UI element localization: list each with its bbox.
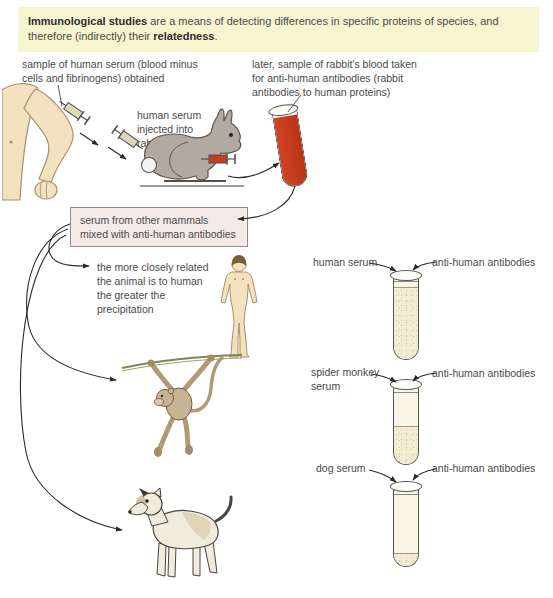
header-box: Immunological studies are a means of det… bbox=[18, 7, 539, 52]
monkey-arm-right bbox=[184, 359, 210, 390]
dog-leg bbox=[193, 546, 200, 576]
human-figure-illustration bbox=[211, 255, 269, 363]
mix-box: serum from other mammals mixed with anti… bbox=[70, 207, 248, 247]
precipitate-trace bbox=[394, 553, 418, 566]
rabbit-illustration bbox=[136, 108, 248, 190]
human-body bbox=[221, 272, 257, 357]
tube1-serum-label: human serum bbox=[313, 256, 377, 270]
rabbit-eye bbox=[229, 133, 233, 137]
dog-illustration bbox=[126, 488, 244, 586]
tube-mouth bbox=[390, 270, 422, 281]
dog-leg bbox=[168, 545, 176, 577]
monkey-ear bbox=[168, 388, 174, 394]
liquid-surface bbox=[394, 392, 418, 393]
header-bold-lead: Immunological studies bbox=[28, 15, 147, 27]
human-detail-dot bbox=[234, 278, 236, 280]
tube-body bbox=[393, 275, 419, 360]
monkey-hand bbox=[208, 355, 215, 362]
dog-leg bbox=[157, 543, 166, 576]
tube3-serum-label: dog serum bbox=[316, 462, 366, 476]
precipitate-partial bbox=[394, 426, 418, 464]
arm-nipple bbox=[9, 140, 12, 143]
rabbit-blood-tube-body bbox=[271, 107, 309, 188]
monkey-eye bbox=[161, 395, 163, 397]
dog-tail bbox=[216, 497, 231, 521]
precipitate-full bbox=[394, 287, 418, 359]
monkey-leg-right bbox=[184, 417, 188, 446]
dog-eye bbox=[145, 499, 149, 503]
liquid-surface bbox=[394, 494, 418, 495]
syringe-with-blood-icon bbox=[201, 151, 239, 167]
tube2-antibody-label: anti-human antibodies bbox=[432, 367, 535, 381]
dog-nose bbox=[128, 510, 132, 514]
tube-human-serum bbox=[389, 270, 425, 366]
human-arm-illustration bbox=[2, 80, 107, 202]
tube-body bbox=[393, 486, 419, 567]
spider-monkey-illustration bbox=[120, 350, 245, 468]
rabbit-blood-tube bbox=[267, 102, 314, 190]
monkey-muzzle bbox=[155, 399, 164, 406]
liquid-surface bbox=[394, 281, 418, 282]
rabbit-tail bbox=[142, 158, 157, 173]
tube-dog-serum bbox=[389, 481, 425, 577]
rabbit-body bbox=[145, 109, 241, 180]
rabbit-blood-fill bbox=[273, 114, 308, 187]
tube-mouth bbox=[390, 379, 422, 390]
monkey-arm-left bbox=[152, 364, 174, 392]
monkey-foot bbox=[154, 447, 162, 457]
monkey-foot bbox=[185, 445, 193, 455]
human-detail-dot bbox=[242, 278, 244, 280]
tube-body bbox=[393, 384, 419, 465]
tube1-antibody-label: anti-human antibodies bbox=[432, 256, 535, 270]
tube2-serum-label: spider monkey serum bbox=[311, 366, 379, 394]
monkey-leg-left bbox=[160, 416, 174, 448]
monkey-hand bbox=[148, 360, 155, 367]
label-rabbit-blood: later, sample of rabbit's blood taken fo… bbox=[252, 58, 417, 100]
tube-mouth bbox=[390, 481, 422, 492]
tube3-antibody-label: anti-human antibodies bbox=[432, 462, 535, 476]
label-precipitation-note: the more closely related the animal is t… bbox=[97, 261, 208, 316]
diagram-canvas: Immunological studies are a means of det… bbox=[0, 0, 553, 598]
header-text-tail: . bbox=[214, 30, 217, 42]
arrow-arm-step2 bbox=[108, 147, 126, 159]
tube-spider-monkey-serum bbox=[389, 379, 425, 475]
header-bold-tail: relatedness bbox=[153, 30, 214, 42]
